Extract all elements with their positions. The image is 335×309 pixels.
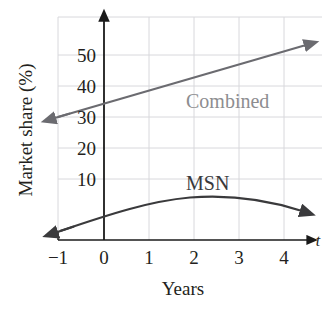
xtick-label-4: 4 [279,247,289,268]
ytick-label-40: 40 [77,76,96,97]
msn-curve-left-arrow [56,227,74,233]
series-msn [56,197,302,233]
chart-canvas: 50 40 30 20 10 −1 0 1 2 3 4 t Years Mark… [0,0,335,309]
xtick-label-2: 2 [189,247,199,268]
series-label-msn: MSN [186,172,229,194]
combined-line-left-arrow [54,114,70,119]
market-share-chart: 50 40 30 20 10 −1 0 1 2 3 4 t Years Mark… [0,0,335,309]
xtick-label-0: 0 [99,247,109,268]
y-tick-labels: 50 40 30 20 10 [77,45,96,190]
x-tick-labels: −1 0 1 2 3 4 [48,247,289,268]
xtick-label-1: 1 [144,247,154,268]
msn-curve [60,197,302,231]
ytick-label-10: 10 [77,169,96,190]
ytick-label-20: 20 [77,138,96,159]
xtick-label-neg1: −1 [48,247,68,268]
x-axis-variable-label: t [316,232,321,249]
gridlines [58,17,322,240]
xtick-label-3: 3 [234,247,244,268]
series-label-combined: Combined [186,90,269,112]
ytick-label-30: 30 [77,107,96,128]
x-axis-title: Years [162,278,204,299]
y-axis-title: Market share (%) [15,64,37,197]
ytick-label-50: 50 [77,45,96,66]
